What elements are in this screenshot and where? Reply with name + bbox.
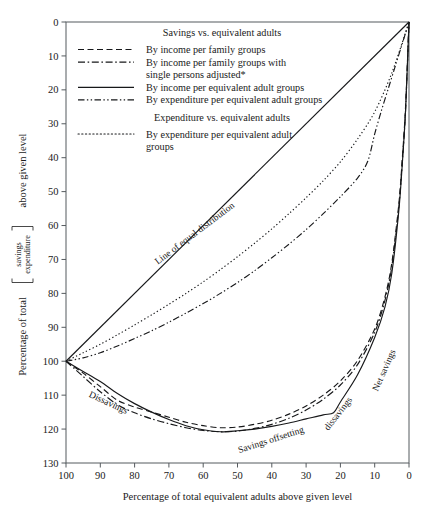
legend-label-0-2: By income per equivalent adult groups [146, 82, 304, 93]
x-tick-label: 60 [198, 470, 209, 481]
legend-label-1-0: By expenditure per equivalent adult [146, 129, 292, 140]
annotation-savings-offsetting-dissavings-part1: Savings offsetting [237, 424, 306, 455]
y-axis-title-numerator: savings [14, 242, 23, 267]
x-tick-label: 30 [301, 470, 312, 481]
y-tick-label: 100 [43, 356, 59, 367]
y-tick-label: 130 [43, 458, 59, 469]
y-axis-title-suffix: above given level [17, 133, 28, 207]
x-tick-label: 80 [129, 470, 140, 481]
fraction-bracket [12, 279, 33, 283]
y-tick-label: 0 [53, 17, 58, 28]
legend-group-heading-0: Savings vs. equivalent adults [163, 27, 281, 38]
y-axis-title-denominator: expenditure [23, 235, 32, 274]
y-tick-label: 80 [48, 288, 59, 299]
y-tick-label: 60 [48, 220, 59, 231]
legend-group-heading-1: Expenditure vs. equivalent adults [154, 112, 290, 123]
x-tick-label: 50 [232, 470, 243, 481]
y-axis-title: Percentage of totalsavingsexpenditureabo… [12, 133, 33, 375]
legend-label-0-0: By income per family groups [146, 44, 265, 55]
annotation-line-of-equal-distribution: Line of equal distribution [153, 200, 237, 266]
legend: Savings vs. equivalent adultsBy income p… [78, 27, 322, 152]
x-tick-label: 20 [335, 470, 346, 481]
x-tick-label: 10 [369, 470, 380, 481]
chart-figure: 0102030405060708090100110120130100908070… [0, 0, 430, 518]
legend-label2-0-1: single persons adjusted* [146, 69, 246, 80]
x-tick-label: 90 [95, 470, 106, 481]
y-tick-label: 20 [48, 84, 59, 95]
legend-label2-1-0: groups [146, 141, 174, 152]
y-axis-title-prefix: Percentage of total [17, 297, 28, 376]
lorenz-curve-chart: 0102030405060708090100110120130100908070… [0, 0, 430, 518]
y-tick-label: 120 [43, 424, 59, 435]
annotation-savings-offsetting-dissavings-part2: dissavings [322, 395, 354, 433]
y-tick-label: 110 [43, 390, 58, 401]
annotation-net-savings: Net savings [370, 348, 397, 393]
x-tick-label: 0 [406, 470, 411, 481]
y-tick-label: 50 [48, 186, 59, 197]
x-tick-label: 70 [164, 470, 175, 481]
x-tick-label: 100 [58, 470, 74, 481]
x-axis-title: Percentage of total equivalent adults ab… [123, 491, 353, 502]
y-tick-label: 40 [48, 152, 59, 163]
y-tick-label: 90 [48, 322, 59, 333]
y-tick-label: 10 [48, 51, 59, 62]
y-tick-label: 70 [48, 254, 59, 265]
fraction-bracket [12, 227, 33, 231]
x-tick-label: 40 [267, 470, 278, 481]
legend-label-0-1: By income per family groups with [146, 57, 286, 68]
legend-label-0-3: By expenditure per equivalent adult grou… [146, 94, 322, 105]
y-tick-label: 30 [48, 118, 59, 129]
